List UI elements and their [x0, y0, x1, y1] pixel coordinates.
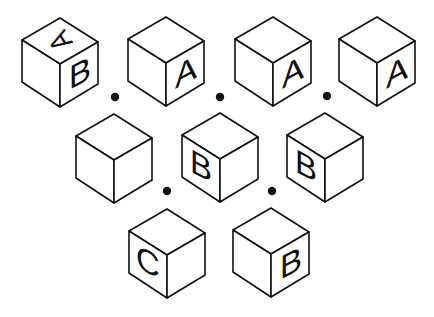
cube-puzzle-canvas: ABAAABBCB [0, 0, 434, 317]
separator-dot [323, 92, 331, 100]
separator-dot [216, 93, 224, 101]
separator-dot [163, 187, 171, 195]
separator-dot [268, 187, 276, 195]
separator-dot [111, 93, 119, 101]
cube-puzzle: ABAAABBCB [0, 0, 434, 317]
